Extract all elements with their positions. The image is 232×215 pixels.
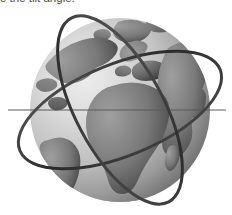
globe-illustration — [0, 0, 232, 215]
caption-clip-strip: e the tilt angle. — [0, 0, 232, 8]
caption-text: e the tilt angle. — [0, 0, 75, 5]
globe-figure — [0, 0, 232, 215]
